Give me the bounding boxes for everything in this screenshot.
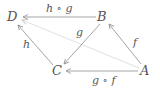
node-c: C [52, 64, 62, 77]
node-d: D [7, 10, 17, 23]
edge-label-g-compose-f: g ∘ f [92, 75, 116, 86]
node-b: B [97, 10, 107, 23]
edge-label-h-compose-g: h ∘ g [46, 3, 73, 14]
edge-label-f: f [133, 37, 137, 48]
node-a: A [140, 64, 149, 77]
edge-label-h: h [23, 39, 30, 50]
edge-label-g: g [76, 27, 83, 38]
commutative-diagram: D B C A h ∘ g g h f g ∘ f [0, 0, 160, 91]
